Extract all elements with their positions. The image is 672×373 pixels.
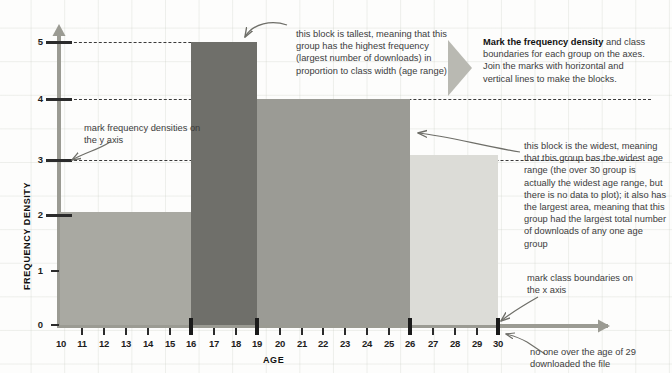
- x-tick-20: [279, 328, 281, 335]
- x-tick-27: [432, 328, 434, 335]
- y-tick-label-4: 4: [29, 93, 43, 104]
- x-tick-label-10: 10: [50, 338, 72, 349]
- y-axis-title: FREQUENCY DENSITY: [22, 182, 32, 290]
- x-tick-label-11: 11: [71, 338, 93, 349]
- x-tick-label-20: 20: [269, 338, 291, 349]
- y-tick-label-0: 0: [29, 319, 43, 330]
- x-tick-13: [125, 328, 127, 335]
- x-tick-label-29: 29: [466, 338, 488, 349]
- y-tick-3: [46, 159, 72, 162]
- x-tick-14: [147, 328, 149, 335]
- x-tick-22: [322, 328, 324, 335]
- x-boundary-tick-30: [496, 318, 500, 335]
- x-tick-24: [366, 328, 368, 335]
- y-tick-4: [46, 98, 72, 101]
- x-tick-15: [169, 328, 171, 335]
- x-tick-label-19: 19: [246, 338, 268, 349]
- x-tick-label-23: 23: [334, 338, 356, 349]
- x-tick-label-13: 13: [115, 338, 137, 349]
- instruction-title: Mark the frequency density: [483, 37, 603, 47]
- x-tick-label-21: 21: [291, 338, 313, 349]
- x-axis-title: AGE: [263, 355, 284, 365]
- x-tick-18: [235, 328, 237, 335]
- x-tick-label-16: 16: [180, 338, 202, 349]
- bar-bin-16-19: [191, 42, 257, 325]
- x-tick-29: [476, 328, 478, 335]
- y-tick-label-3: 3: [29, 154, 43, 165]
- x-tick-label-30: 30: [487, 338, 509, 349]
- y-tick-label-5: 5: [29, 36, 43, 47]
- callout-x-axis-marks: mark class boundaries on the x axis: [527, 272, 637, 296]
- x-tick-17: [213, 328, 215, 335]
- callout-widest-block: this block is the widest, meaning that t…: [524, 140, 667, 250]
- callout-no-data-over-29: no one over the age of 29 downloaded the…: [530, 346, 670, 370]
- y-tick-1: [51, 270, 59, 272]
- bar-bin-19-26: [257, 99, 410, 325]
- x-tick-label-22: 22: [312, 338, 334, 349]
- y-tick-0: [51, 324, 59, 326]
- x-tick-23: [344, 328, 346, 335]
- x-tick-label-18: 18: [225, 338, 247, 349]
- x-tick-label-27: 27: [422, 338, 444, 349]
- x-tick-28: [454, 328, 456, 335]
- y-tick-2: [46, 214, 72, 217]
- x-tick-25: [388, 328, 390, 335]
- bar-bin-26-30: [410, 155, 498, 325]
- x-tick-label-24: 24: [356, 338, 378, 349]
- x-tick-12: [103, 328, 105, 335]
- x-boundary-tick-16: [189, 318, 193, 335]
- x-tick-11: [81, 328, 83, 335]
- x-tick-21: [301, 328, 303, 335]
- x-boundary-tick-19: [255, 318, 259, 335]
- x-tick-label-17: 17: [203, 338, 225, 349]
- x-tick-label-28: 28: [444, 338, 466, 349]
- x-tick-label-25: 25: [378, 338, 400, 349]
- x-tick-label-26: 26: [399, 338, 421, 349]
- instruction-panel: Mark the frequency density and class bou…: [483, 36, 651, 85]
- x-boundary-tick-26: [408, 318, 412, 335]
- figure-canvas: 5 4 3 2 1 0 10 11 12 13 14 15 16: [0, 0, 672, 373]
- y-tick-5: [46, 41, 72, 44]
- callout-tallest-block: this block is tallest, meaning that this…: [296, 28, 461, 77]
- callout-y-axis-marks: mark frequency densities on the y axis: [84, 122, 209, 146]
- bar-bin-10-16: [60, 212, 191, 325]
- x-tick-label-12: 12: [93, 338, 115, 349]
- x-tick-label-14: 14: [137, 338, 159, 349]
- x-tick-label-15: 15: [159, 338, 181, 349]
